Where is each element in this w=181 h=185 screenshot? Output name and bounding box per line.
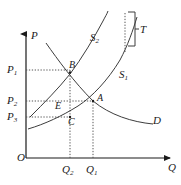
point-label-b: B (69, 60, 75, 70)
quantity-tick-q2-base: Q (62, 163, 70, 175)
price-tick-p3-base: P (7, 110, 14, 122)
y-axis-label: P (31, 30, 38, 41)
origin-label: O (17, 152, 25, 163)
price-tick-p2: P2 (7, 95, 17, 108)
quantity-tick-q2: Q2 (62, 164, 73, 177)
quantity-tick-q1-base: Q (86, 163, 94, 175)
price-tick-p1-base: P (7, 63, 14, 75)
guide-lines (26, 12, 125, 158)
curve-label-supply-original: S1 (119, 69, 128, 82)
supply-demand-tax-figure: O P Q P1 P2 P3 Q2 Q1 S2 S1 D A B C E T (0, 0, 181, 185)
price-tick-p2-sub: 2 (14, 100, 18, 108)
tax-bracket-label: T (140, 24, 146, 35)
point-label-a: A (97, 93, 103, 103)
price-tick-p2-base: P (7, 94, 14, 106)
price-tick-p1-sub: 1 (14, 69, 18, 77)
price-tick-p3-sub: 3 (14, 116, 18, 124)
price-tick-p1: P1 (7, 64, 17, 77)
dot-point-a (92, 100, 94, 102)
quantity-tick-q2-sub: 2 (70, 169, 74, 177)
curve-label-demand: D (153, 115, 161, 126)
curve-label-supply-shifted-sub: 2 (96, 37, 100, 45)
quantity-tick-q1: Q1 (86, 164, 97, 177)
curve-label-supply-shifted: S2 (90, 32, 99, 45)
quantity-tick-q1-sub: 1 (94, 169, 98, 177)
x-axis-label: Q (168, 162, 176, 173)
point-label-e: E (55, 101, 61, 111)
figure-canvas (0, 0, 181, 185)
price-tick-p3: P3 (7, 111, 17, 124)
dot-point-b (69, 71, 71, 73)
point-label-c: C (68, 117, 75, 127)
curve-label-supply-original-sub: 1 (125, 74, 129, 82)
